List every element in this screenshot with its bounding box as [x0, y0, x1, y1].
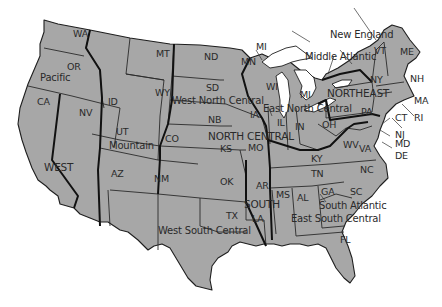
state-label-az: AZ [111, 169, 124, 179]
state-label-la: LA [252, 214, 264, 224]
state-label-ma: MA [414, 96, 428, 106]
division-label-east-north-central: East North Central [263, 104, 352, 114]
state-label-ks: KS [220, 144, 232, 154]
state-label-sd: SD [206, 83, 219, 93]
state-label-wv: WV [343, 140, 359, 150]
state-label-mo: MO [248, 143, 263, 153]
state-label-mi: MI [300, 90, 311, 100]
state-label-il: IL [277, 118, 285, 128]
state-label-tn: TN [311, 169, 324, 179]
state-label-al: AL [297, 193, 308, 203]
state-label-ut: UT [116, 127, 128, 137]
state-label-nm: NM [154, 174, 169, 184]
state-label-nc: NC [360, 165, 373, 175]
state-label-ia: IA [250, 110, 259, 120]
state-label-tx: TX [226, 211, 238, 221]
state-label-ga: GA [321, 187, 334, 197]
state-label-va: VA [359, 144, 371, 154]
division-label-west-north-central: West North Central [172, 96, 264, 106]
state-label-wa: WA [73, 29, 88, 39]
state-label-nb: NB [208, 115, 221, 125]
state-label-md: MD [395, 139, 410, 149]
state-label-nh: NH [410, 74, 424, 84]
state-label-wi: WI [266, 82, 278, 92]
division-label-east-south-central: East South Central [291, 214, 381, 224]
state-label-ri: RI [414, 113, 423, 123]
region-label-south: SOUTH [244, 199, 280, 210]
state-label-de: DE [395, 151, 408, 161]
state-label-ar: AR [256, 181, 269, 191]
state-label-id: ID [108, 97, 118, 107]
state-label-wy: WY [155, 88, 170, 98]
state-label-vt: VT [374, 46, 386, 56]
state-label-mt: MT [156, 49, 170, 59]
state-label-mn: MN [241, 57, 256, 67]
region-label-north-central: NORTH CENTRAL [208, 131, 294, 142]
state-label-or: OR [67, 62, 81, 72]
state-label-fl: FL [340, 235, 350, 245]
division-label-south-atlantic: South Atlantic [319, 201, 386, 211]
state-label-ny: NY [370, 75, 383, 85]
state-label-ok: OK [220, 177, 233, 187]
division-label-new-england: New England [330, 30, 393, 40]
state-label-pa: PA [361, 107, 372, 117]
state-label-oh: OH [322, 120, 336, 130]
state-label-ca: CA [37, 97, 50, 107]
division-label-middle-atlantic: Middle Atlantic [305, 52, 376, 62]
state-label-ky: KY [311, 154, 322, 164]
region-label-west: WEST [44, 162, 73, 173]
state-label-me: ME [400, 47, 414, 57]
state-label-nv: NV [79, 108, 92, 118]
region-label-northeast: NORTHEAST [327, 88, 389, 99]
state-label-mi-upper: MI [256, 42, 267, 52]
division-label-west-south-central: West South Central [158, 226, 251, 236]
state-label-co: CO [165, 134, 179, 144]
state-label-ms: MS [276, 190, 290, 200]
state-label-sc: SC [350, 187, 362, 197]
division-label-mountain: Mountain [109, 141, 154, 151]
division-label-pacific: Pacific [40, 73, 70, 83]
state-label-in: IN [295, 122, 305, 132]
state-label-ct: CT [395, 113, 407, 123]
state-label-nd: ND [204, 52, 218, 62]
